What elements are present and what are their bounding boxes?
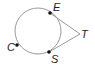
label-S: S [51, 53, 59, 65]
label-C: C [7, 41, 15, 53]
point-E-dot [48, 11, 52, 15]
label-E: E [53, 1, 61, 13]
circle-tangent-diagram: E S C T [0, 0, 95, 66]
point-C-dot [15, 43, 19, 47]
label-T: T [81, 28, 89, 40]
tangent-segment-ET [50, 13, 80, 34]
tangent-segment-ST [49, 34, 80, 52]
circle [15, 8, 61, 54]
